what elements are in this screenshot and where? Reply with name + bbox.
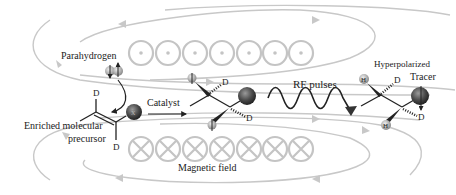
deuterium-label: D (394, 75, 401, 85)
field-dot-icon (289, 41, 313, 65)
field-out-of-page-row (129, 41, 313, 65)
magnetic-field-label: Magnetic field (178, 162, 237, 173)
field-cross-icon (237, 137, 261, 161)
hydrogen-label: H (361, 76, 366, 84)
hyperpolarized-label: Hyperpolarized (374, 59, 430, 69)
rf-pulses-label: RF pulses (293, 78, 337, 90)
hydrogen-label: H (383, 122, 388, 130)
catalyst-label: Catalyst (147, 97, 180, 108)
field-cross-icon (263, 137, 287, 161)
enriched-label-line2: precursor (68, 133, 106, 144)
deuterium-label: D (113, 142, 120, 152)
deuterium-label: D (418, 112, 425, 122)
field-dot-icon (129, 41, 153, 65)
field-cross-icon (183, 137, 207, 161)
field-into-page-row (129, 137, 313, 161)
parahydrogen-molecule-icon (105, 63, 123, 78)
field-cross-icon (289, 137, 313, 161)
field-dot-icon (237, 41, 261, 65)
field-dot-icon (183, 41, 207, 65)
deuterium-label: D (93, 88, 100, 98)
substituent-x-label: X (131, 110, 136, 116)
field-cross-icon (129, 137, 153, 161)
field-dot-icon (263, 41, 287, 65)
enriched-label-line1: Enriched molecular (24, 120, 103, 131)
substituent-x-sphere (238, 87, 256, 105)
deuterium-label: D (222, 77, 229, 87)
tracer-label: Tracer (410, 71, 436, 82)
field-dot-icon (156, 41, 180, 65)
field-cross-icon (156, 137, 180, 161)
parahydrogen-label: Parahydrogen (61, 50, 117, 61)
deuterium-label: D (246, 113, 253, 123)
field-dot-icon (210, 41, 234, 65)
rf-wave (268, 88, 350, 111)
substituent-x-sphere (411, 87, 429, 105)
field-cross-icon (210, 137, 234, 161)
hyperpolarization-diagram: Parahydrogen D D X Enriched molecular pr… (0, 0, 456, 195)
